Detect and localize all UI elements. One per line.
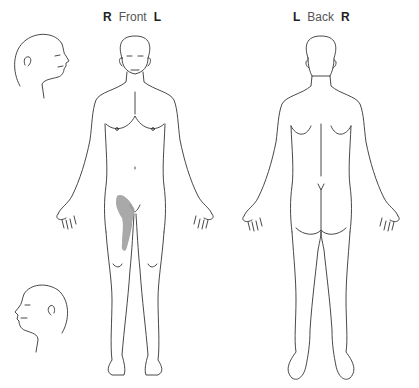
back-body-outline [243, 36, 400, 379]
front-body-outline [57, 36, 214, 375]
marked-region-right-thigh [116, 195, 135, 251]
head-profile-right-facing [15, 34, 69, 98]
body-diagram [0, 0, 419, 388]
head-profile-left-facing [15, 285, 68, 352]
